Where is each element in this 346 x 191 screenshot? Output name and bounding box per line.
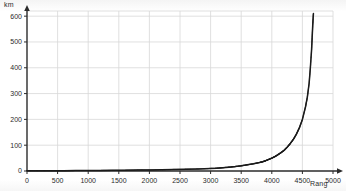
series-points — [26, 14, 314, 172]
y-tick-label: 200 — [10, 116, 22, 123]
data-series — [26, 14, 314, 172]
y-tick-label: 500 — [10, 38, 22, 45]
plot-area: 0100200300400500600 05001000150020002500… — [0, 0, 346, 191]
series-line — [27, 14, 313, 171]
x-axis-tick-labels: 0500100015002000250030003500400045005000 — [25, 177, 341, 184]
y-tick-label: 100 — [10, 142, 22, 149]
x-tick-label: 3000 — [203, 177, 219, 184]
x-tick-label: 2000 — [142, 177, 158, 184]
x-tick-label: 2500 — [172, 177, 188, 184]
x-tick-label: 4000 — [264, 177, 280, 184]
x-axis-arrow-icon — [337, 168, 343, 174]
y-tick-label: 0 — [18, 167, 22, 174]
x-tick-label: 500 — [52, 177, 64, 184]
y-axis-tick-labels: 0100200300400500600 — [10, 13, 22, 175]
vertical-gridlines — [58, 11, 333, 171]
x-tick-label: 5000 — [325, 177, 341, 184]
x-tick-label: 3500 — [233, 177, 249, 184]
y-axis-arrow-icon — [24, 5, 30, 11]
x-tick-label: 4500 — [295, 177, 311, 184]
y-tick-label: 400 — [10, 64, 22, 71]
x-tick-label: 1500 — [111, 177, 127, 184]
y-tick-label: 300 — [10, 90, 22, 97]
y-tick-label: 600 — [10, 13, 22, 20]
chart-container: km Rang 0100200300400500600 050010001500… — [0, 0, 346, 191]
x-tick-label: 1000 — [80, 177, 96, 184]
x-tick-label: 0 — [25, 177, 29, 184]
